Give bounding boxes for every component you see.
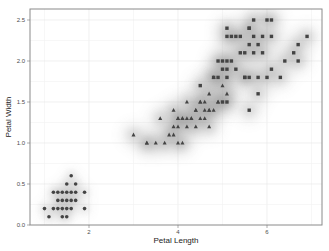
virginica-point <box>248 76 251 79</box>
virginica-point <box>256 76 259 79</box>
virginica-point <box>296 59 299 62</box>
virginica-point <box>296 43 299 46</box>
virginica-point <box>243 51 246 54</box>
setosa-point <box>56 190 60 194</box>
virginica-point <box>248 27 251 30</box>
virginica-point <box>225 100 228 103</box>
setosa-point <box>65 207 69 211</box>
virginica-point <box>256 43 259 46</box>
virginica-point <box>261 51 264 54</box>
y-tick-label: 0.0 <box>17 222 26 228</box>
virginica-point <box>270 68 273 71</box>
virginica-point <box>212 76 215 79</box>
virginica-point <box>279 76 282 79</box>
virginica-point <box>283 59 286 62</box>
virginica-point <box>230 35 233 38</box>
setosa-point <box>65 182 69 186</box>
virginica-point <box>252 18 255 21</box>
setosa-point <box>61 207 65 211</box>
virginica-point <box>252 35 255 38</box>
y-tick-label: 1.0 <box>17 140 26 146</box>
virginica-point <box>221 100 224 103</box>
y-tick-label: 2.0 <box>17 58 26 64</box>
y-axis: 0.00.51.01.52.02.5 <box>17 17 30 228</box>
virginica-point <box>256 92 259 95</box>
setosa-point <box>47 215 51 219</box>
y-axis-title: Petal Width <box>4 97 13 138</box>
virginica-point <box>248 43 251 46</box>
setosa-point <box>65 190 69 194</box>
virginica-point <box>225 68 228 71</box>
setosa-point <box>74 199 78 203</box>
setosa-point <box>69 190 73 194</box>
virginica-point <box>221 59 224 62</box>
setosa-point <box>61 199 65 203</box>
setosa-point <box>69 174 73 178</box>
setosa-point <box>83 190 87 194</box>
virginica-point <box>239 35 242 38</box>
virginica-point <box>243 76 246 79</box>
setosa-point <box>56 207 60 211</box>
virginica-point <box>305 35 308 38</box>
virginica-point <box>270 35 273 38</box>
setosa-point <box>65 215 69 219</box>
setosa-point <box>61 215 65 219</box>
virginica-point <box>225 59 228 62</box>
virginica-point <box>265 76 268 79</box>
setosa-point <box>74 182 78 186</box>
virginica-point <box>234 68 237 71</box>
virginica-point <box>265 18 268 21</box>
virginica-point <box>261 35 264 38</box>
x-axis: 246 <box>87 225 269 235</box>
virginica-point <box>225 27 228 30</box>
setosa-point <box>74 190 78 194</box>
x-tick-label: 6 <box>265 229 269 235</box>
virginica-point <box>292 51 295 54</box>
setosa-point <box>56 199 60 203</box>
virginica-point <box>199 84 202 87</box>
setosa-point <box>52 190 56 194</box>
virginica-point <box>225 35 228 38</box>
virginica-point <box>270 18 273 21</box>
y-tick-label: 1.5 <box>17 99 26 105</box>
scatter-density-chart: 246 0.00.51.01.52.02.5 Petal Length Peta… <box>0 0 329 251</box>
setosa-point <box>52 207 56 211</box>
virginica-point <box>239 51 242 54</box>
virginica-point <box>234 35 237 38</box>
virginica-point <box>225 76 228 79</box>
virginica-point <box>230 59 233 62</box>
setosa-point <box>43 207 47 211</box>
virginica-point <box>216 76 219 79</box>
x-tick-label: 2 <box>87 229 91 235</box>
virginica-point <box>221 68 224 71</box>
virginica-point <box>248 109 251 112</box>
y-tick-label: 2.5 <box>17 17 26 23</box>
x-tick-label: 4 <box>176 229 180 235</box>
setosa-point <box>69 207 73 211</box>
virginica-point <box>216 59 219 62</box>
setosa-point <box>65 199 69 203</box>
setosa-point <box>69 199 73 203</box>
x-axis-title: Petal Length <box>154 236 199 245</box>
virginica-point <box>252 51 255 54</box>
y-tick-label: 0.5 <box>17 181 26 187</box>
setosa-point <box>83 207 87 211</box>
setosa-point <box>61 190 65 194</box>
